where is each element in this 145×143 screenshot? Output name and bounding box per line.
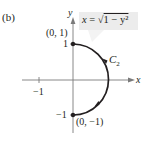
point-0-1 <box>71 42 75 46</box>
equation-radicand: 1 − y² <box>104 14 129 25</box>
curve-label-subscript: 2 <box>116 60 120 68</box>
curve-label: C2 <box>109 54 120 68</box>
y-tick-label-1: 1 <box>63 39 68 49</box>
equation: x = √1 − y² <box>82 15 128 26</box>
equation-equals: = <box>87 14 98 25</box>
y-axis-label: y <box>68 8 72 18</box>
point-label-0-neg1: (0, −1) <box>76 117 103 127</box>
curve-c2 <box>73 44 109 115</box>
figure: (b) y x −1 1 −1 (0, 1) (0, −1) C2 x = √1… <box>0 0 145 143</box>
x-axis-arrow-icon <box>128 78 135 83</box>
x-tick-label-neg1: −1 <box>33 87 44 97</box>
callout-pointer <box>88 30 104 42</box>
x-axis-label: x <box>136 75 140 85</box>
point-label-0-1: (0, 1) <box>46 28 68 38</box>
y-axis-arrow-icon <box>71 17 76 24</box>
y-tick-label-neg1: −1 <box>56 110 67 120</box>
point-0-neg1 <box>71 113 75 117</box>
